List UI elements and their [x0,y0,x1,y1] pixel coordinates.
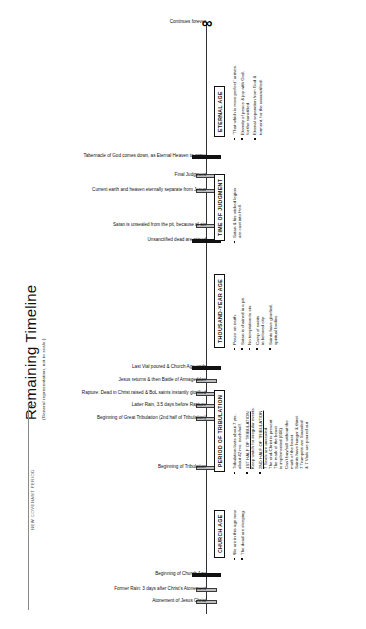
era-bullet-line: The dead are sleeping. [240,509,245,555]
era-bullet-item: Saints have glorified,spiritual bodies. [268,297,278,350]
event-label: Last Vial poured & Church Age ends [132,364,206,369]
era-bullet-list: Peace on earth.Satan is chained in a pit… [232,297,280,350]
era-bullet-item: No temptation to sin. [247,297,252,350]
continues-forever-label: Continues forever [170,19,206,24]
era-box: PERIOD OF TRIBULATION [214,390,225,472]
era-bullet-list: Satan & his wicked legionare cast into H… [232,188,245,243]
era-bullet-line: Peace on earth. [232,297,237,345]
era-bullet-list: Tribulation lasts about 7 yrs,about 42 m… [232,407,312,474]
era-bullet-line: We are in this age now. [232,509,237,555]
timeline-diagram: Remaining Timeline (General representati… [0,0,366,629]
era-bullet-item: We are in this age now. [232,509,237,560]
timeline-axis [206,22,207,614]
era-bullet-line: spiritual bodies. [273,297,278,345]
era-bullet-item: Satan is chained in a pit. [240,297,245,350]
era-bullet-item: Tribulation lasts about 7 yrs,about 42 m… [232,407,242,474]
era-bullet-item: The dead are sleeping. [240,509,245,560]
era-bullet-line: Satan is chained in a pit. [240,297,245,345]
event-label: Final Judgment [175,172,206,177]
era-bullet-item: Satan & his wicked legionare cast into H… [232,188,242,243]
era-bullet-item: 2ND HALF OF TRIBULATION7 Seals are unsea… [258,407,310,474]
event-label: Beginning of Great Tribulation (2nd half… [97,415,206,420]
title-main: Remaining Timeline [22,285,39,420]
era-box: TIME OF JUDGMENT [214,174,225,241]
era-bullet-item: "That which is more perfect" arrives. [232,65,237,140]
era-bullet-item: Peace on earth. [232,297,237,350]
event-label: Current earth and heaven eternally separ… [92,187,206,192]
era-bullet-item: Eternal separation from God &torment, fo… [252,65,262,140]
event-label: Beginning of Church Age [155,571,206,576]
new-covenant-tick [28,405,36,406]
page-title: Remaining Timeline (General representati… [22,285,46,420]
era-box: ETERNAL AGE [214,86,225,137]
event-label: Former Rain: 3 days after Christ's Atone… [114,586,206,591]
era-bullet-line: Keep watch for irregular events. [250,407,255,469]
era-bullet-line: are cast into Hell. [237,188,242,238]
new-covenant-bracket [28,405,29,610]
event-label: Tabernacle of God comes down, as Eternal… [83,153,206,158]
event-label: Rapture: Dead in Christ raised & BoL sai… [82,390,206,395]
era-bullet-line: for the sanctified. [245,65,250,135]
era-bullet-line: & 7 Vials are poured out. [304,407,309,469]
era-bullet-item: Camp of saintsin beloved city. [255,297,265,350]
era-bullet-line: in beloved city. [260,297,265,345]
event-label: Latter Rain, 3.5 days before Rapture [132,402,206,407]
event-label: Atonement of Jesus Christ [152,598,206,603]
era-bullet-line: about 42 mo. each half. [237,407,242,469]
era-box: THOUSAND-YEAR AGE [214,274,225,348]
era-box: CHURCH AGE [214,510,225,558]
title-sub: (General representation, not to scale.) [41,285,46,420]
era-bullet-line: torment, for the unsanctified. [258,65,263,135]
era-bullet-item: 1ST HALF OF TRIBULATIONKeep watch for ir… [245,407,255,474]
new-covenant-label: NEW COVENANT PERIOD [30,469,35,530]
event-label: Satan is unsealed from the pit, because … [113,222,206,227]
event-label: Jesus returns & then Battle of Armageddo… [118,377,206,382]
era-bullet-list: "That which is more perfect" arrives.Ete… [232,65,265,140]
era-bullet-line: Eternal separation from God & [252,65,257,135]
era-bullet-item: Eternity of peace & joy with God,for the… [240,65,250,140]
era-bullet-line: "That which is more perfect" arrives. [232,65,237,135]
event-label: Unsanctified dead are raised [148,237,206,242]
era-bullet-list: We are in this age now.The dead are slee… [232,509,247,560]
era-bullet-line: No temptation to sin. [247,297,252,345]
event-label: Beginning of Tribulation [158,464,206,469]
